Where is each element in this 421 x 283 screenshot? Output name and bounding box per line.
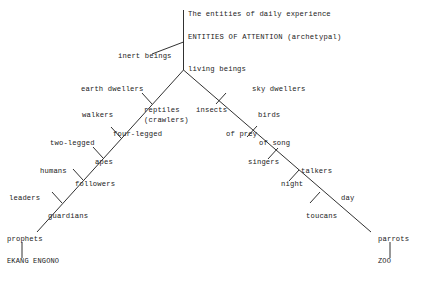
node-humans: humans: [40, 167, 67, 176]
node-toucans: toucans: [306, 212, 337, 221]
edge-followers: [73, 169, 83, 180]
node-earth-dwellers: earth dwellers: [81, 85, 144, 94]
node-reptiles-line-2: (crawlers): [144, 116, 189, 125]
node-insects: insects: [196, 106, 227, 115]
edge-guardians: [52, 192, 62, 203]
node-leaders: leaders: [9, 194, 40, 203]
edge-toucans: [310, 192, 320, 203]
node-four-legged: four-legged: [113, 130, 162, 139]
edge-apes: [93, 147, 103, 158]
node-singers: singers: [248, 158, 279, 167]
root-caption-line-2: ENTITIES OF ATTENTION (archetypal): [188, 33, 341, 42]
edge-right-spine: [184, 70, 372, 232]
node-prophets: prophets: [7, 235, 43, 244]
terminal-label-right: ZOO: [378, 257, 391, 266]
node-day: day: [341, 194, 354, 203]
figure-canvas: The entities of daily experience ENTITIE…: [0, 0, 421, 283]
node-of-prey: of prey: [226, 130, 257, 139]
node-birds: birds: [258, 111, 280, 120]
terminal-label-left: EKANG ENGONO: [7, 257, 59, 266]
node-reptiles-line-1: reptiles: [144, 106, 180, 115]
node-followers: followers: [75, 180, 115, 189]
node-inert-beings: inert beings: [118, 52, 172, 61]
root-caption-line-1: The entities of daily experience: [188, 10, 331, 19]
edge-left-spine: [37, 70, 184, 232]
node-talkers: talkers: [301, 167, 332, 176]
node-night: night: [281, 180, 303, 189]
node-sky-dwellers: sky dwellers: [252, 85, 306, 94]
node-walkers: walkers: [82, 111, 113, 120]
node-apes: apes: [95, 158, 113, 167]
node-of-song: of song: [259, 139, 290, 148]
node-guardians: guardians: [48, 212, 88, 221]
node-parrots: parrots: [378, 235, 409, 244]
edge-reptiles: [142, 93, 152, 104]
node-two-legged: two-legged: [50, 139, 95, 148]
node-living-beings: living beings: [188, 65, 246, 74]
